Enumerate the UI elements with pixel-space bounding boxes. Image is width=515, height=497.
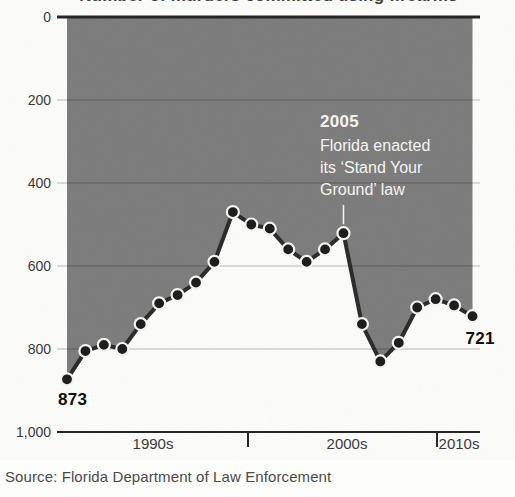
data-point [319, 243, 331, 255]
data-point [61, 373, 73, 385]
data-point [448, 299, 460, 311]
event-annotation: 2005 Florida enactedits ‘Stand YourGroun… [320, 112, 470, 201]
x-tick-label: 2010s [424, 436, 494, 452]
y-tick-label: 800 [1, 341, 51, 357]
event-annotation-year: 2005 [320, 112, 470, 132]
data-point [411, 302, 423, 314]
x-tick-label: 1990s [118, 436, 188, 452]
event-annotation-text: Florida enactedits ‘Stand YourGround’ la… [320, 135, 470, 201]
data-point [393, 337, 405, 349]
start-value-label: 873 [58, 390, 87, 410]
gun-deaths-chart-figure: Number of murders committed using firear… [0, 0, 515, 497]
data-point [356, 318, 368, 330]
data-point [245, 219, 257, 231]
data-point [264, 223, 276, 235]
data-point [190, 277, 202, 289]
data-point [430, 293, 442, 305]
data-point [467, 310, 479, 322]
data-point [282, 243, 294, 255]
data-point [79, 345, 91, 357]
event-annotation-line: its ‘Stand Your [320, 157, 470, 179]
data-point [337, 227, 349, 239]
y-tick-label: 0 [1, 9, 51, 25]
data-point [374, 355, 386, 367]
y-tick-label: 600 [1, 258, 51, 274]
event-annotation-line: Florida enacted [320, 135, 470, 157]
x-tick-label: 2000s [312, 436, 382, 452]
y-tick-label: 200 [1, 92, 51, 108]
data-point [116, 343, 128, 355]
end-value-label: 721 [466, 329, 495, 349]
y-tick-label: 1,000 [1, 424, 51, 440]
data-point [135, 318, 147, 330]
data-point [172, 289, 184, 301]
data-point [98, 339, 110, 351]
data-point [301, 256, 313, 268]
data-point [227, 206, 239, 218]
data-point [208, 256, 220, 268]
source-note: Source: Florida Department of Law Enforc… [5, 468, 331, 485]
data-point [153, 297, 165, 309]
y-tick-label: 400 [1, 175, 51, 191]
event-annotation-line: Ground’ law [320, 179, 470, 201]
